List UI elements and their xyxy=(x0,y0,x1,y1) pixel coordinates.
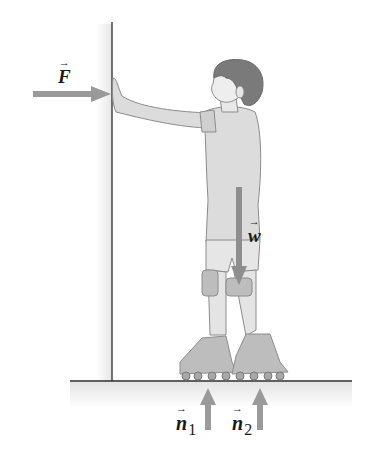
label-n1-symbol: n xyxy=(176,412,187,434)
skate-back xyxy=(180,336,236,374)
label-n2: → n2 xyxy=(232,412,252,439)
knee-pad-back xyxy=(202,270,218,296)
label-n2-symbol: n xyxy=(232,412,243,434)
free-body-diagram: → F → w → n1 → n2 xyxy=(0,0,373,458)
vector-arrow-mark: → xyxy=(176,403,186,413)
label-n2-subscript: 2 xyxy=(244,421,252,438)
label-n1: → n1 xyxy=(176,412,196,439)
label-F-symbol: F xyxy=(58,66,71,87)
vector-arrow-mark: → xyxy=(248,216,261,226)
vector-arrow-mark: → xyxy=(232,403,242,413)
child-figure xyxy=(112,60,288,380)
label-F: → F xyxy=(58,66,71,88)
label-n1-subscript: 1 xyxy=(188,421,196,438)
wall xyxy=(96,22,112,381)
sleeve xyxy=(200,110,216,132)
diagram-canvas xyxy=(0,0,373,458)
skate-front xyxy=(232,334,288,374)
label-w: → w xyxy=(248,225,261,247)
vector-arrow-mark: → xyxy=(58,57,71,67)
arm xyxy=(112,78,212,128)
label-w-symbol: w xyxy=(248,225,261,246)
